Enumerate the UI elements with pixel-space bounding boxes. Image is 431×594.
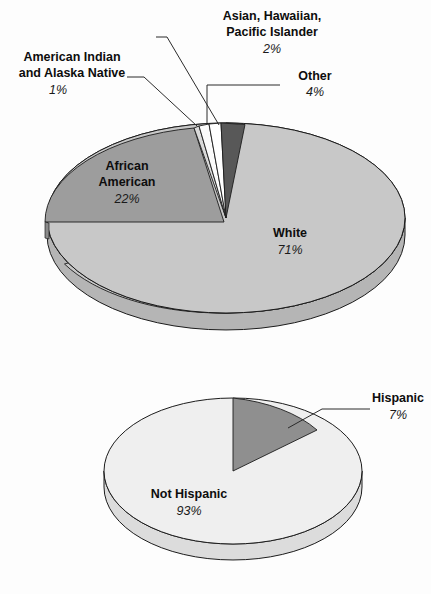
label-asian-hawaiian-pacific-islander: Asian, Hawaiian, Pacific Islander 2%: [223, 9, 322, 56]
label-american-indian-alaska-native: American Indian and Alaska Native 1%: [19, 50, 126, 97]
label-other-name: Other: [298, 69, 331, 83]
race-pie-chart: Asian, Hawaiian, Pacific Islander 2% Ame…: [19, 9, 405, 330]
label-american-indian-pct: 1%: [49, 83, 67, 97]
leader-line-asian: [156, 37, 219, 125]
label-asian-line1: Asian, Hawaiian,: [223, 9, 322, 23]
label-american-indian-line2: and Alaska Native: [19, 66, 126, 80]
label-african-american-line2: American: [99, 175, 156, 189]
label-white-pct: 71%: [277, 243, 302, 257]
charts-svg: Asian, Hawaiian, Pacific Islander 2% Ame…: [0, 0, 431, 594]
label-hispanic-pct: 7%: [389, 408, 407, 422]
label-not-hispanic-pct: 93%: [176, 504, 201, 518]
label-african-american-pct: 22%: [113, 192, 139, 206]
label-asian-line2: Pacific Islander: [226, 25, 318, 39]
label-american-indian-line1: American Indian: [23, 50, 120, 64]
pie-chart-figure: Asian, Hawaiian, Pacific Islander 2% Ame…: [0, 0, 431, 594]
leader-line-american-indian: [127, 77, 197, 126]
label-other: Other 4%: [298, 69, 331, 99]
label-african-american-line1: African: [105, 159, 148, 173]
label-hispanic-name: Hispanic: [372, 391, 424, 405]
label-hispanic: Hispanic 7%: [372, 391, 424, 422]
ethnicity-pie-chart: Hispanic 7% Not Hispanic 93%: [104, 391, 424, 560]
label-asian-pct: 2%: [262, 42, 281, 56]
race-slice-african-american-lip: [45, 222, 49, 239]
label-white-name: White: [273, 226, 307, 240]
label-other-pct: 4%: [306, 85, 324, 99]
label-not-hispanic-name: Not Hispanic: [151, 487, 227, 501]
